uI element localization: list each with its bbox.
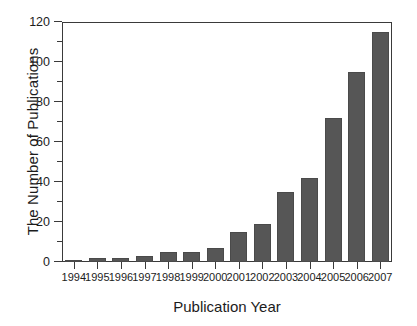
x-tick-label: 2007: [360, 272, 400, 283]
bar: [348, 72, 365, 262]
bar: [277, 192, 294, 262]
y-tick-major: [54, 221, 62, 222]
y-tick-label: 100: [6, 56, 50, 69]
y-tick-label: 0: [6, 256, 50, 269]
bar: [183, 252, 200, 262]
x-tick: [215, 262, 216, 269]
bar: [325, 118, 342, 262]
bar: [301, 178, 318, 262]
chart-figure: The Number of Publications 0204060801001…: [0, 0, 417, 326]
x-tick: [97, 262, 98, 269]
y-tick-label: 120: [6, 16, 50, 29]
x-tick: [333, 262, 334, 269]
x-tick: [286, 262, 287, 269]
bar: [254, 224, 271, 262]
x-tick: [239, 262, 240, 269]
bar: [372, 32, 389, 262]
y-tick-major: [54, 101, 62, 102]
bar: [160, 252, 177, 262]
y-tick-major: [54, 61, 62, 62]
bar-series: [62, 22, 392, 262]
y-tick-label: 80: [6, 96, 50, 109]
x-tick: [168, 262, 169, 269]
y-tick-label: 60: [6, 136, 50, 149]
x-tick: [310, 262, 311, 269]
y-tick-label: 40: [6, 176, 50, 189]
y-tick-major: [54, 141, 62, 142]
y-tick-major: [54, 261, 62, 262]
x-axis-title: Publication Year: [62, 298, 392, 315]
x-tick: [357, 262, 358, 269]
x-tick: [262, 262, 263, 269]
x-tick: [121, 262, 122, 269]
x-tick: [145, 262, 146, 269]
x-tick: [192, 262, 193, 269]
x-tick: [74, 262, 75, 269]
y-tick-major: [54, 21, 62, 22]
bar: [207, 248, 224, 262]
x-tick: [380, 262, 381, 269]
y-tick-label: 20: [6, 216, 50, 229]
y-tick-major: [54, 181, 62, 182]
bar: [230, 232, 247, 262]
